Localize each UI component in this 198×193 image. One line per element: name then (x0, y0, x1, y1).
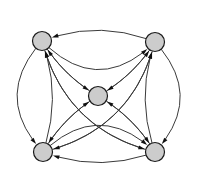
edge-top-right-to-top-left-arrowhead (52, 34, 59, 38)
node-top-left-circle[interactable] (33, 32, 52, 51)
edge-top-right-to-bottom-right (162, 50, 181, 140)
edge-top-left-to-center (47, 49, 84, 87)
node-top-right-circle[interactable] (146, 33, 165, 52)
edge-center-to-bottom-right (107, 101, 146, 138)
edge-top-right-to-top-left (58, 30, 146, 38)
edge-bottom-right-to-top-left-arrowhead (45, 51, 49, 58)
edge-top-right-to-bottom-left-arrowhead (53, 146, 60, 150)
edge-bottom-left-to-bottom-right (50, 125, 142, 145)
node-center-circle[interactable] (89, 87, 108, 106)
node-bottom-right[interactable] (146, 143, 165, 162)
graph-canvas (0, 0, 198, 193)
edge-center-to-top-right (107, 56, 146, 91)
node-center[interactable] (89, 87, 108, 106)
edge-top-left-to-bottom-left-arrowhead (30, 138, 36, 144)
edge-bottom-right-to-bottom-left-arrowhead (53, 155, 60, 159)
edge-top-right-to-center (112, 50, 149, 87)
edge-top-left-to-top-right (49, 48, 142, 70)
edge-top-right-to-center-arrowhead (107, 85, 114, 90)
edge-top-right-to-bottom-right-arrowhead (162, 138, 168, 144)
edge-center-to-top-left (51, 55, 89, 91)
edge-bottom-right-to-top-right (145, 58, 152, 143)
graph-figure (0, 0, 198, 193)
node-bottom-left[interactable] (34, 143, 53, 162)
edge-center-to-bottom-left (52, 101, 90, 138)
edge-bottom-right-to-center-arrowhead (107, 102, 114, 107)
node-top-right[interactable] (146, 33, 165, 52)
edge-bottom-right-to-bottom-left (59, 155, 146, 162)
edge-bottom-right-to-center (112, 105, 150, 144)
node-top-left[interactable] (33, 32, 52, 51)
node-bottom-right-circle[interactable] (146, 143, 165, 162)
edge-top-left-to-bottom-right-arrowhead (138, 146, 145, 150)
node-bottom-left-circle[interactable] (34, 143, 53, 162)
edge-top-left-to-bottom-left (17, 49, 36, 140)
